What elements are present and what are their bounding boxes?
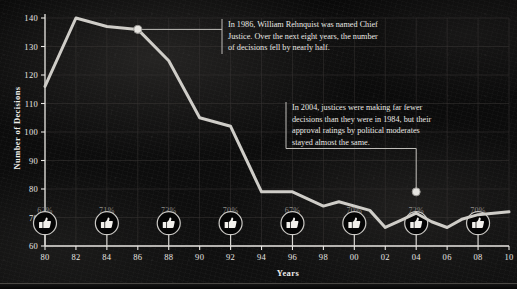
annotation-line: of decisions fell by nearly half. xyxy=(228,43,330,52)
y-axis-tick-label: 60 xyxy=(29,241,38,251)
approval-rating-item: 70% xyxy=(343,206,366,246)
x-axis-tick-label: 94 xyxy=(257,252,267,262)
approval-rating-item: 73% xyxy=(157,206,180,246)
annotation-line: approval ratings by political moderates xyxy=(292,126,420,135)
x-axis-tick-label: 08 xyxy=(474,252,483,262)
approval-rating-item: 67% xyxy=(281,206,304,246)
marker-2004[interactable] xyxy=(412,188,420,196)
x-axis-tick-label: 00 xyxy=(350,252,359,262)
marker-1986[interactable] xyxy=(134,25,142,33)
x-axis-tick-labels: 80828486889092949698000204060810 xyxy=(40,252,513,262)
x-axis-tick-label: 92 xyxy=(226,252,235,262)
x-axis-tick-label: 86 xyxy=(133,252,142,262)
x-axis-tick-label: 82 xyxy=(71,252,80,262)
y-axis-tick-label: 90 xyxy=(29,156,38,166)
annotation-2004: In 2004, justices were making far fewerd… xyxy=(292,103,431,147)
y-axis-tick-label: 80 xyxy=(29,184,38,194)
x-axis-title: Years xyxy=(277,268,300,278)
y-axis-tick-label: 140 xyxy=(24,13,38,23)
y-axis-tick-label: 130 xyxy=(24,42,38,52)
x-axis-tick-label: 98 xyxy=(319,252,328,262)
x-axis-tick-label: 10 xyxy=(504,252,513,262)
annotation-text-group: In 1986, William Rehnquist was named Chi… xyxy=(228,20,431,147)
y-axis-tick-label: 100 xyxy=(24,127,38,137)
bottom-border xyxy=(0,283,517,289)
y-axis-tick-label: 110 xyxy=(25,99,38,109)
annotation-line: In 1986, William Rehnquist was named Chi… xyxy=(228,20,378,29)
y-axis-title: Number of Decisions xyxy=(12,86,22,169)
y-axis-tick-label: 120 xyxy=(24,70,38,80)
annotation-1986-leader xyxy=(138,19,222,54)
x-axis-tick-label: 80 xyxy=(40,252,49,262)
approval-rating-item: 70% xyxy=(467,206,490,246)
x-axis-tick-label: 04 xyxy=(412,252,422,262)
annotation-line: decisions than they were in 1984, but th… xyxy=(292,115,431,124)
annotation-line: In 2004, justices were making far fewer xyxy=(292,103,423,112)
chart-canvas: 60708090100110120130140 8082848688909294… xyxy=(0,0,517,289)
approval-rating-item: 71% xyxy=(95,206,118,246)
annotation-line: stayed almost the same. xyxy=(292,138,370,147)
approval-rating-item: 70% xyxy=(219,206,242,246)
x-axis-tick-label: 88 xyxy=(164,252,173,262)
annotation-1986: In 1986, William Rehnquist was named Chi… xyxy=(228,20,378,52)
x-axis-tick-label: 96 xyxy=(288,252,297,262)
x-axis-tick-label: 06 xyxy=(443,252,452,262)
annotation-line: Justice. Over the next eight years, the … xyxy=(228,32,378,41)
chart-svg: 60708090100110120130140 8082848688909294… xyxy=(0,0,517,289)
x-axis-tick-label: 84 xyxy=(102,252,112,262)
x-axis-tick-label: 02 xyxy=(381,252,390,262)
x-axis-tick-label: 90 xyxy=(195,252,204,262)
